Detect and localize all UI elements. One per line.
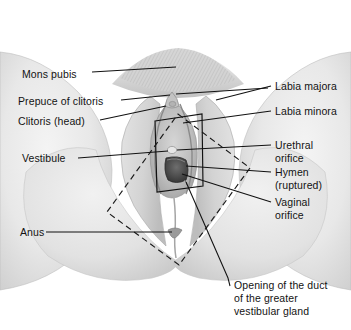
label-labia-majora-text: Labia majora [275, 80, 337, 92]
label-clitoris-head: Clitoris (head) [18, 115, 85, 128]
label-hymen-ruptured-line2: (ruptured) [275, 179, 322, 192]
anatomy-figure-page: Mons pubis Prepuce of clitoris Clitoris … [0, 0, 351, 330]
label-vestibule-text: Vestibule [22, 152, 66, 164]
gland-duct-caption-line2: of the greater [234, 292, 328, 305]
label-hymen-ruptured: Hymen (ruptured) [275, 166, 322, 192]
label-vaginal-orifice: Vaginal orifice [275, 196, 310, 222]
gland-duct-caption-line1: Opening of the duct [234, 279, 328, 292]
label-prepuce-of-clitoris: Prepuce of clitoris [18, 95, 103, 108]
urethral-orifice-shape [167, 146, 176, 153]
label-hymen-ruptured-line1: Hymen [275, 166, 322, 179]
label-greater-vestibular-gland-duct: Opening of the duct of the greater vesti… [234, 279, 328, 318]
label-mons-pubis: Mons pubis [22, 68, 77, 81]
label-prepuce-of-clitoris-text: Prepuce of clitoris [18, 95, 103, 107]
label-vestibule: Vestibule [22, 152, 66, 165]
label-vaginal-orifice-line1: Vaginal [275, 196, 310, 209]
anus-shape [168, 228, 182, 238]
label-urethral-orifice-line1: Urethral [275, 139, 313, 152]
label-anus-text: Anus [20, 226, 44, 238]
label-labia-majora: Labia majora [275, 80, 337, 93]
label-clitoris-head-text: Clitoris (head) [18, 115, 85, 127]
label-labia-minora-text: Labia minora [275, 105, 337, 117]
pubic-hair-texture [112, 46, 246, 100]
label-vaginal-orifice-line2: orifice [275, 209, 310, 222]
label-urethral-orifice: Urethral orifice [275, 139, 313, 165]
label-anus: Anus [20, 226, 44, 239]
vaginal-orifice-shape [165, 157, 188, 183]
label-mons-pubis-text: Mons pubis [22, 68, 77, 80]
label-urethral-orifice-line2: orifice [275, 152, 313, 165]
label-labia-minora: Labia minora [275, 105, 337, 118]
gland-duct-caption-line3: vestibular gland [234, 305, 328, 318]
clitoris-head-shape [169, 101, 176, 106]
